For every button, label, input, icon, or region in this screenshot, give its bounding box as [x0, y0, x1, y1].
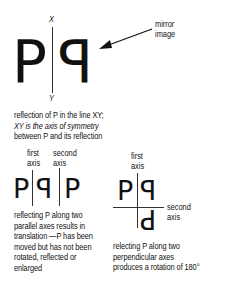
axis-y-label: Y: [49, 93, 54, 103]
first-axis-label-line1: first: [131, 151, 143, 161]
letter-p-first-reflection: P: [36, 175, 52, 202]
letter-p-rotated-180: P: [140, 206, 156, 233]
letter-p-first-reflection: P: [140, 177, 156, 204]
arrow-icon: [96, 26, 156, 54]
letter-p-original: P: [117, 177, 133, 204]
caption-perpendicular-axes: relecting P along two perpendicular axes…: [113, 241, 214, 273]
letter-p-mirrored: P: [58, 33, 93, 91]
caption-parallel-axes: reflecting P along two parallel axes res…: [14, 210, 106, 274]
first-axis-label-line2: axis: [131, 161, 144, 171]
symmetry-axis-xy: [52, 27, 53, 93]
mirror-image-label-line1: mirror: [155, 19, 174, 29]
second-perpendicular-axis: [113, 207, 164, 208]
second-parallel-axis: [59, 168, 60, 206]
letter-p-original: P: [12, 33, 47, 91]
first-parallel-axis: [32, 170, 33, 206]
letter-p-original: P: [13, 175, 29, 202]
second-axis-label-line2: axis: [167, 212, 180, 222]
first-axis-label-line1: first: [27, 148, 39, 158]
first-perpendicular-axis: [137, 173, 138, 228]
letter-p-translated: P: [64, 175, 80, 202]
axis-x-label: X: [49, 14, 54, 24]
mirror-image-label-line2: image: [155, 29, 175, 39]
second-axis-label-line1: second: [53, 148, 77, 158]
first-axis-label-line2: axis: [27, 158, 40, 168]
second-axis-label-line2: axis: [53, 158, 66, 168]
second-axis-label-line1: second: [167, 202, 191, 212]
caption-single-reflection: reflection of P in the line XY; XY is th…: [14, 110, 118, 142]
